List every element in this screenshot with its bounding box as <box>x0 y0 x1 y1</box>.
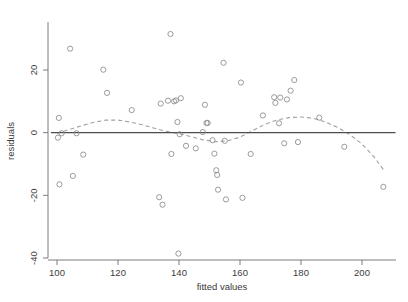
x-axis-tick-label: 100 <box>49 267 65 278</box>
y-axis-tick-label: -20 <box>28 188 39 202</box>
residual-plot-svg: 200-20-40 100120140160180200 fitted valu… <box>0 0 408 302</box>
x-axis-tick-label: 120 <box>110 267 126 278</box>
y-axis-tick-label: 20 <box>28 65 39 76</box>
residual-plot: 200-20-40 100120140160180200 fitted valu… <box>0 0 408 302</box>
x-axis-tick-label: 140 <box>171 267 187 278</box>
x-axis-title: fitted values <box>197 281 248 292</box>
x-axis-tick-label: 200 <box>354 267 370 278</box>
y-axis-title: residuals <box>5 122 16 160</box>
y-axis-tick-label: 0 <box>28 130 39 135</box>
x-axis-tick-label: 160 <box>232 267 248 278</box>
plot-background <box>0 0 408 302</box>
y-axis-tick-label: -40 <box>28 251 39 265</box>
x-axis-tick-label: 180 <box>293 267 309 278</box>
